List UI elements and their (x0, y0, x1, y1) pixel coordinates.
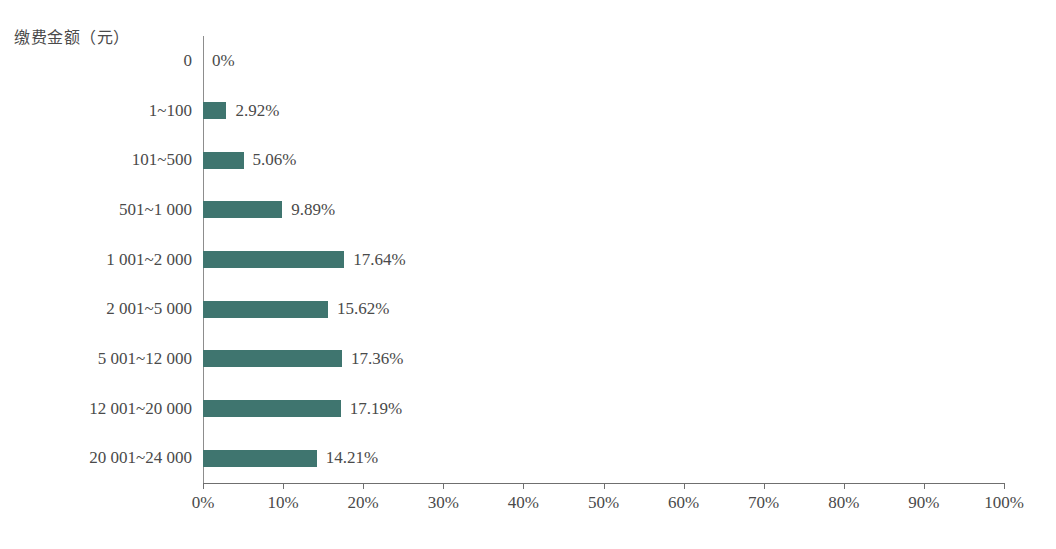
x-axis-tick (363, 483, 364, 489)
bar-row: 501~1 0009.89% (203, 201, 1004, 218)
x-axis-tick-label: 20% (348, 493, 379, 513)
bar-value-label: 15.62% (337, 299, 389, 319)
x-axis-tick-label: 40% (508, 493, 539, 513)
category-label: 1~100 (149, 101, 192, 121)
category-label: 1 001~2 000 (106, 250, 192, 270)
bar-value-label: 17.19% (350, 399, 402, 419)
x-axis-tick (203, 483, 204, 489)
bar-value-label: 2.92% (235, 101, 279, 121)
x-axis-tick (764, 483, 765, 489)
clipped-text-sliver (0, 0, 1056, 11)
bar-row: 1~1002.92% (203, 102, 1004, 119)
x-axis-tick (684, 483, 685, 489)
bar-row: 5 001~12 00017.36% (203, 350, 1004, 367)
category-label: 5 001~12 000 (98, 349, 192, 369)
bar-row: 2 001~5 00015.62% (203, 301, 1004, 318)
bar-value-label: 17.36% (351, 349, 403, 369)
bar (203, 152, 244, 169)
bar-row: 1 001~2 00017.64% (203, 251, 1004, 268)
bar-chart-figure: 缴费金额（元） 00%1~1002.92%101~5005.06%501~1 0… (0, 0, 1056, 549)
x-axis-tick-label: 70% (748, 493, 779, 513)
category-label: 501~1 000 (119, 200, 192, 220)
bar (203, 201, 282, 218)
x-axis-tick-label: 50% (588, 493, 619, 513)
bar-value-label: 14.21% (326, 448, 378, 468)
bar-value-label: 17.64% (353, 250, 405, 270)
bar-value-label: 0% (212, 51, 235, 71)
bar-row: 00% (203, 52, 1004, 69)
bar-row: 20 001~24 00014.21% (203, 450, 1004, 467)
x-axis-tick (283, 483, 284, 489)
x-axis-tick-label: 0% (192, 493, 215, 513)
bar-row: 101~5005.06% (203, 152, 1004, 169)
bar (203, 400, 341, 417)
y-axis-title: 缴费金额（元） (14, 24, 130, 48)
plot-area: 00%1~1002.92%101~5005.06%501~1 0009.89%1… (203, 36, 1004, 483)
bar (203, 102, 226, 119)
bar-value-label: 9.89% (291, 200, 335, 220)
bar (203, 251, 344, 268)
x-axis-tick (443, 483, 444, 489)
x-axis-tick-label: 90% (908, 493, 939, 513)
bar-row: 12 001~20 00017.19% (203, 400, 1004, 417)
x-axis-tick-label: 60% (668, 493, 699, 513)
x-axis-tick (924, 483, 925, 489)
x-axis-tick (844, 483, 845, 489)
bar (203, 450, 317, 467)
category-label: 20 001~24 000 (89, 448, 192, 468)
category-label: 12 001~20 000 (89, 399, 192, 419)
category-label: 0 (184, 51, 193, 71)
category-label: 2 001~5 000 (106, 299, 192, 319)
bar (203, 301, 328, 318)
x-axis-tick-label: 30% (428, 493, 459, 513)
x-axis-tick-label: 80% (828, 493, 859, 513)
x-axis-tick-label: 100% (984, 493, 1024, 513)
x-axis-tick (604, 483, 605, 489)
category-label: 101~500 (132, 150, 192, 170)
x-axis-tick-label: 10% (268, 493, 299, 513)
bar-value-label: 5.06% (253, 150, 297, 170)
x-axis-tick (523, 483, 524, 489)
bar (203, 350, 342, 367)
x-axis-tick (1004, 483, 1005, 489)
